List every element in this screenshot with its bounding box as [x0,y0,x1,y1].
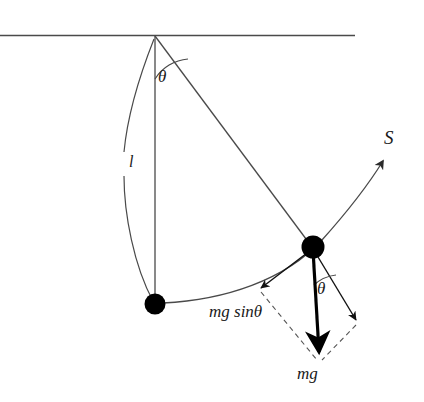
bob-rest [145,294,166,315]
tangential-force-label: mg sinθ [209,303,262,320]
pendulum-diagram: θ θ l S mg sinθ mg [0,0,424,402]
string-displaced [155,36,312,247]
theta-pivot-label: θ [158,68,166,85]
bob-displaced [302,236,325,259]
length-bracket-lower [124,176,153,301]
weight-label: mg [297,365,318,382]
length-bracket-upper [124,39,154,152]
pendulum-figure-svg [0,0,424,402]
theta-bob-label: θ [317,280,325,297]
weight-vector-arrow [313,250,319,352]
tangential-component-arrow [261,250,311,288]
length-label: l [129,154,133,170]
arc-s-label: S [384,128,394,147]
dashed-radial-to-tip [322,325,356,360]
dashed-tangential-to-tip [261,292,317,360]
swing-arc [163,161,383,303]
